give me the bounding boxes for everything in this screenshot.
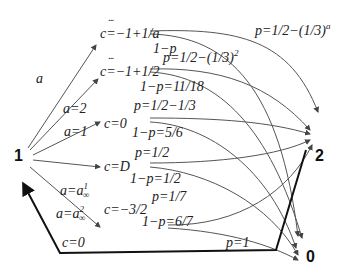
- state1-p-label: p=1/2−(1/3)2: [163, 49, 239, 65]
- node-0: 0: [306, 249, 315, 265]
- state2-p-label: p=1/2−1/3: [134, 99, 196, 113]
- bottom-path-p-1: p=1: [226, 236, 249, 250]
- state3-q-label: 1−p=1/2: [130, 172, 181, 186]
- edge-label-a-1: a=1: [64, 125, 87, 139]
- bottom-path-c-0: c=0: [62, 236, 85, 250]
- ellipsis-top: ...: [108, 12, 113, 23]
- edge-label-a-2: a=2: [63, 102, 86, 116]
- state2-q-label: 1−p=5/6: [132, 126, 183, 140]
- state-c-minus-3-over-2: c=−3/2: [104, 203, 147, 217]
- ellipsis-middle: ...: [108, 50, 113, 61]
- edge-label-a: a: [36, 72, 43, 86]
- state-c-minus1-plus-1-over-a: c=−1+1/a: [100, 27, 159, 41]
- edge-label-a-inf-2: a=a2∞: [56, 205, 85, 223]
- state1-q-label: 1−p=11/18: [140, 80, 204, 94]
- node-2: 2: [315, 148, 324, 164]
- state4-p-label: p=1/7: [152, 190, 186, 204]
- node-1: 1: [14, 148, 23, 164]
- state3-p-label: p=1/2: [135, 146, 169, 160]
- state-c-minus1-plus-1-over-2: c=−1+1/2: [100, 65, 159, 79]
- edge-label-a-inf-1: a=a1∞: [60, 182, 89, 200]
- state-c-0: c=0: [104, 117, 127, 131]
- state-c-D: c=D: [104, 160, 130, 174]
- markov-chain-diagram: 1 2 0 a a=2 a=1 a=a1∞ a=a2∞ ... ... c=−1…: [0, 0, 343, 271]
- state0-p-label: p=1/2−(1/3)a: [255, 22, 331, 38]
- state4-q-label: 1−p=6/7: [142, 215, 193, 229]
